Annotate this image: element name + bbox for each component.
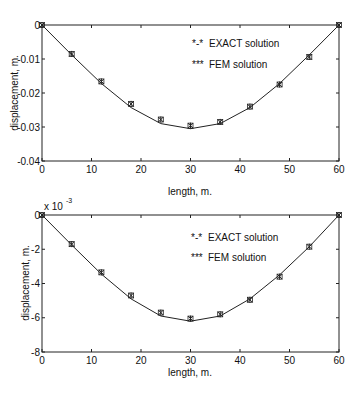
bottom-y-axis-label: displacement, m. (20, 245, 31, 321)
bottom-displacement-chart: 0102030405060 0-2-4-6-8 x 10 -3 displace… (20, 197, 345, 378)
top-y-axis-label: displacement, m. (9, 55, 20, 131)
x-tick-label: 40 (234, 355, 246, 366)
y-tick-label: -8 (31, 347, 40, 358)
top-legend-exact-marker: *-* (192, 38, 203, 49)
y-tick-label: -6 (31, 312, 40, 323)
top-exact-solution-line (42, 25, 339, 129)
x-tick-label: 0 (39, 355, 45, 366)
x-tick-label: 60 (333, 164, 345, 175)
bottom-y-scale-exponent: -3 (66, 197, 72, 204)
top-legend: *-* EXACT solution *** FEM solution (192, 38, 279, 70)
figure-canvas: 0102030405060 0-0.01-0.02-0.03-0.04 disp… (0, 0, 364, 399)
x-tick-label: 60 (333, 355, 345, 366)
x-tick-label: 40 (234, 164, 246, 175)
fem-marker (188, 316, 193, 322)
y-tick-label: -0.03 (17, 122, 40, 133)
bottom-x-axis-label: length, m. (168, 367, 212, 378)
bottom-fem-solution-markers (40, 212, 342, 322)
x-tick-label: 20 (135, 355, 147, 366)
top-legend-exact-label: EXACT solution (209, 38, 279, 49)
top-y-axis: 0-0.01-0.02-0.03-0.04 (17, 20, 339, 167)
bottom-legend-exact-marker: *-* (191, 232, 202, 243)
fem-marker (129, 101, 134, 107)
x-tick-label: 30 (185, 164, 197, 175)
top-x-axis-label: length, m. (168, 186, 212, 197)
top-legend-fem-marker: *** (192, 59, 204, 70)
y-tick-label: -0.01 (17, 54, 40, 65)
fem-marker (158, 310, 163, 316)
fem-marker (218, 311, 223, 317)
y-tick-label: -2 (31, 244, 40, 255)
x-tick-label: 10 (86, 164, 98, 175)
bottom-legend-exact-label: EXACT solution (208, 232, 278, 243)
fem-marker (218, 119, 223, 125)
fem-marker (69, 51, 74, 57)
y-tick-label: -0.04 (17, 156, 40, 167)
top-displacement-chart: 0102030405060 0-0.01-0.02-0.03-0.04 disp… (9, 20, 345, 198)
top-legend-fem-label: FEM solution (209, 59, 267, 70)
x-tick-label: 10 (86, 355, 98, 366)
x-tick-label: 0 (39, 164, 45, 175)
y-tick-label: -0.02 (17, 88, 40, 99)
bottom-legend-fem-label: FEM solution (208, 252, 266, 263)
x-tick-label: 50 (284, 355, 296, 366)
fem-marker (69, 241, 74, 247)
bottom-legend-fem-marker: *** (191, 252, 203, 263)
fem-marker (158, 117, 163, 123)
y-tick-label: -4 (31, 278, 40, 289)
x-tick-label: 20 (135, 164, 147, 175)
x-tick-label: 50 (284, 164, 296, 175)
top-fem-solution-markers (40, 22, 342, 129)
fem-marker (188, 123, 193, 129)
top-plot-frame (42, 25, 339, 161)
bottom-exact-solution-line (42, 215, 339, 321)
fem-marker (307, 244, 312, 250)
fem-marker (129, 292, 134, 298)
bottom-y-axis: 0-2-4-6-8 (31, 210, 339, 358)
bottom-legend: *-* EXACT solution *** FEM solution (191, 232, 278, 263)
x-tick-label: 30 (185, 355, 197, 366)
bottom-y-scale-prefix: x 10 (44, 201, 63, 212)
